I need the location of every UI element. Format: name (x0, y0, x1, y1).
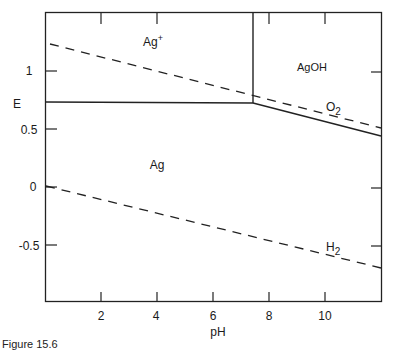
region-label-ag: Ag (150, 158, 165, 172)
ytick-label-0.5: 0.5 (21, 123, 38, 137)
y-axis-ticks (46, 71, 57, 245)
phase-boundaries (46, 13, 381, 136)
xtick-label-4: 4 (153, 309, 160, 323)
x-axis-ticks (101, 292, 325, 301)
region-label-agoh: AgOH (297, 61, 327, 73)
h2-line (46, 186, 381, 268)
line-label-o2: O2 (326, 100, 341, 117)
xtick-label-10: 10 (318, 309, 332, 323)
water-stability-lines (46, 44, 381, 268)
xtick-label-6: 6 (210, 309, 217, 323)
right-axis-ticks (371, 72, 381, 246)
plot-frame (46, 13, 382, 302)
agoh-ag-boundary (253, 103, 381, 136)
xtick-label-8: 8 (266, 309, 273, 323)
ag-ion-ag-boundary (46, 102, 253, 103)
ytick-label-0: 0 (30, 180, 37, 194)
figure-caption: Figure 15.6 (2, 338, 58, 350)
top-axis-ticks (101, 13, 325, 24)
ytick-label-1: 1 (26, 64, 33, 78)
x-axis-label: pH (210, 325, 225, 339)
ytick-label-minus-0.5: -0.5 (19, 239, 40, 253)
o2-line (50, 44, 381, 128)
region-label-ag-ion: Ag+ (143, 33, 163, 49)
xtick-label-2: 2 (98, 309, 105, 323)
y-axis-label: E (13, 97, 21, 111)
